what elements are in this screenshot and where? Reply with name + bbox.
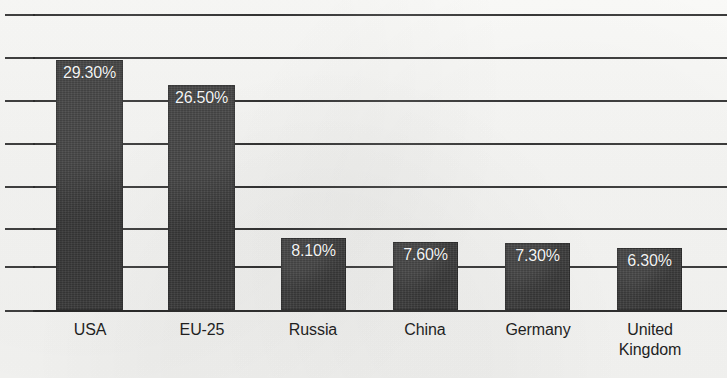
gridline [33,100,727,102]
bar-chart-figure: 29.30%USA26.50%EU-258.10%Russia7.60%Chin… [0,0,727,378]
y-axis-tick [5,228,35,230]
gridline [33,14,727,16]
bar-value-label: 7.30% [505,247,570,265]
y-axis-tick [5,57,35,59]
y-axis-tick [5,100,35,102]
bar-value-label: 26.50% [168,89,235,107]
bar [168,85,235,310]
x-axis-category-label: Russia [273,320,353,340]
gridline [33,57,727,59]
bar-value-label: 7.60% [393,246,458,264]
gridline [33,143,727,145]
x-axis-category-label: United Kingdom [604,320,696,360]
y-axis-tick [5,310,35,312]
bar-value-label: 29.30% [56,64,123,82]
y-axis-tick [5,143,35,145]
gridline [33,228,727,230]
y-axis-tick [5,266,35,268]
bar [56,60,123,310]
x-axis-category-label: EU-25 [162,320,242,340]
plot-area: 29.30%USA26.50%EU-258.10%Russia7.60%Chin… [0,0,727,378]
gridline [33,186,727,188]
x-axis-category-label: Germany [492,320,584,340]
x-axis-category-label: USA [50,320,130,340]
y-axis-tick [5,14,35,16]
y-axis-tick [5,186,35,188]
bar-value-label: 8.10% [281,242,346,260]
x-axis-baseline [33,310,727,312]
bar-value-label: 6.30% [617,252,682,270]
x-axis-category-label: China [385,320,465,340]
